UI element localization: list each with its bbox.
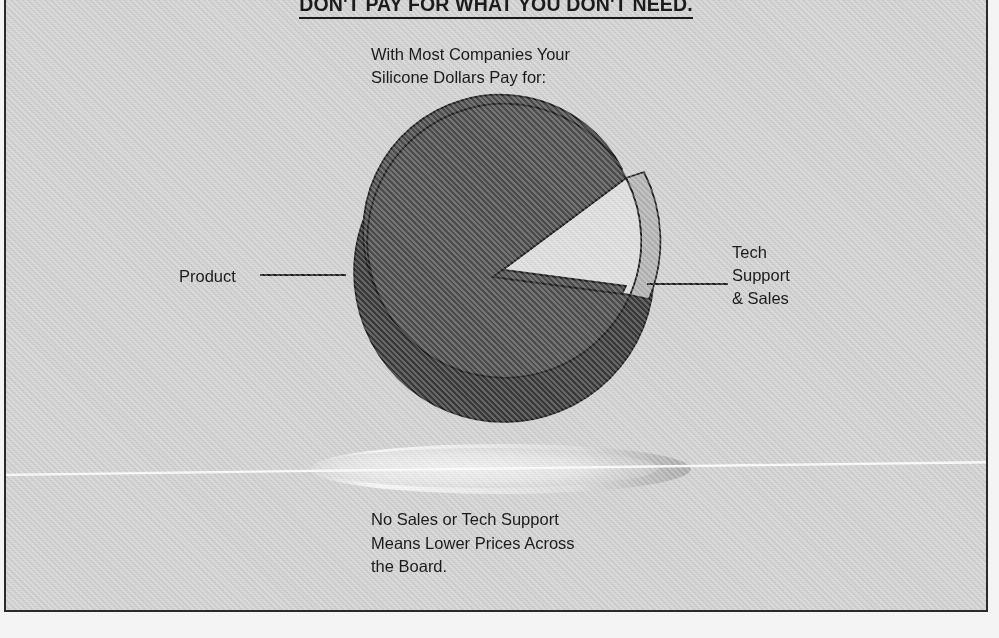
caption-line-3: the Board. <box>371 555 575 579</box>
pie-label-product-text: Product <box>179 267 236 285</box>
caption-line-1: No Sales or Tech Support <box>371 508 575 532</box>
caption-text: No Sales or Tech Support Means Lower Pri… <box>371 508 575 579</box>
intro-line-1: With Most Companies Your <box>371 43 570 66</box>
pie-label-tech-line-3: & Sales <box>732 287 790 310</box>
intro-text: With Most Companies Your Silicone Dollar… <box>371 43 570 89</box>
intro-line-2: Silicone Dollars Pay for: <box>371 66 570 89</box>
caption-line-2: Means Lower Prices Across <box>371 532 575 556</box>
pie-label-tech-line-1: Tech <box>732 241 790 264</box>
framed-panel: DON'T PAY FOR WHAT YOU DON'T NEED. With … <box>4 0 988 612</box>
pie-label-tech-support: Tech Support & Sales <box>732 241 790 310</box>
page-title-text: DON'T PAY FOR WHAT YOU DON'T NEED. <box>299 0 693 19</box>
page-title: DON'T PAY FOR WHAT YOU DON'T NEED. <box>6 0 986 16</box>
pie-label-tech-line-2: Support <box>732 264 790 287</box>
poster-page: DON'T PAY FOR WHAT YOU DON'T NEED. With … <box>0 0 999 638</box>
pie-label-product: Product <box>179 265 236 288</box>
